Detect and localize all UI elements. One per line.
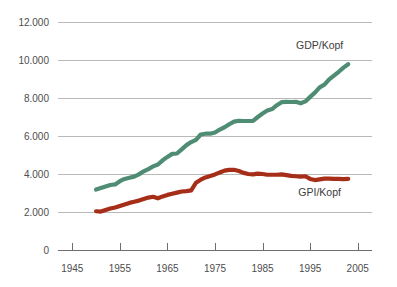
y-axis-tick-label: 8.000 [24, 93, 49, 104]
x-axis-tick-label: 1965 [156, 263, 179, 274]
y-axis-tick-label: 6.000 [24, 131, 49, 142]
x-axis-tick-label: 1945 [61, 263, 84, 274]
y-axis-tick-label: 12.000 [18, 17, 49, 28]
chart-container: 02.0004.0006.0008.00010.00012.000 194519… [0, 0, 397, 287]
series-label-gpi-kopf: GPI/Kopf [298, 186, 341, 198]
x-tickmarks-group [73, 243, 359, 250]
y-axis-labels-group: 02.0004.0006.0008.00010.00012.000 [18, 17, 49, 256]
x-axis-labels-group: 1945195519651975198519952005 [61, 263, 369, 274]
x-axis-tick-label: 2005 [347, 263, 370, 274]
y-axis-tick-label: 10.000 [18, 55, 49, 66]
x-axis-tick-label: 1975 [204, 263, 227, 274]
series-label-gdp-kopf: GDP/Kopf [296, 39, 343, 51]
y-axis-tick-label: 4.000 [24, 169, 49, 180]
y-axis-tick-label: 2.000 [24, 207, 49, 218]
line-chart: 02.0004.0006.0008.00010.00012.000 194519… [0, 0, 397, 287]
gridlines-group [58, 23, 372, 251]
x-axis-tick-label: 1995 [299, 263, 322, 274]
y-axis-tick-label: 0 [43, 245, 49, 256]
x-axis-tick-label: 1985 [251, 263, 274, 274]
x-axis-tick-label: 1955 [109, 263, 132, 274]
